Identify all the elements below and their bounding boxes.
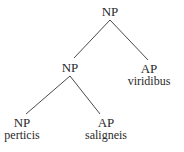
branch-inner-np-to-ap-leaf	[70, 76, 100, 114]
branch-root-to-inner-np	[74, 20, 110, 58]
node-root-label: NP	[102, 5, 119, 18]
branch-inner-np-to-np-leaf	[26, 76, 70, 114]
node-ap-leaf: AP saligneis	[85, 116, 127, 142]
node-ap-right: AP viridibus	[128, 62, 171, 88]
node-inner-np: NP	[62, 61, 79, 74]
node-np-leaf-word: perticis	[4, 129, 39, 142]
node-ap-right-word: viridibus	[128, 75, 171, 88]
node-ap-leaf-word: saligneis	[85, 129, 127, 142]
node-np-leaf: NP perticis	[4, 116, 39, 142]
node-inner-np-label: NP	[62, 61, 79, 74]
node-root: NP	[102, 5, 119, 18]
branch-root-to-ap-right	[110, 20, 148, 60]
